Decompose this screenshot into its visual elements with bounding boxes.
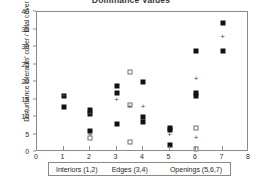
- data-point-filled-square: [220, 20, 225, 25]
- x-tick-mark: [195, 146, 196, 151]
- group-label: Openings (5,6,7): [170, 166, 222, 173]
- data-point-filled-square: [194, 48, 199, 53]
- x-tick-mark: [222, 146, 223, 151]
- data-point-plus: +: [139, 102, 148, 111]
- x-tick-mark: [63, 146, 64, 151]
- data-point-plus: +: [192, 134, 201, 143]
- x-tick-label: 1: [55, 153, 71, 160]
- data-point-filled-square: [114, 122, 119, 127]
- y-tick-label: 10: [3, 113, 29, 120]
- x-tick-label: 7: [214, 153, 230, 160]
- y-tick-label: 0: [3, 148, 29, 155]
- data-point-filled-square: [220, 48, 225, 53]
- group-label: Interiors (1,2): [56, 166, 98, 173]
- y-axis-ticks: 0510152025303540: [0, 11, 36, 151]
- x-tick-label: 6: [187, 153, 203, 160]
- data-point-plus: +: [192, 74, 201, 83]
- data-point-filled-square: [141, 120, 146, 125]
- plot-area: ++++++++++: [36, 11, 248, 151]
- data-point-open-square: [127, 69, 132, 74]
- x-tick-label: 2: [81, 153, 97, 160]
- data-point-filled-square: [141, 80, 146, 85]
- data-point-open-square: [194, 125, 199, 130]
- data-point-plus: +: [165, 130, 174, 139]
- data-point-plus: +: [125, 102, 134, 111]
- x-tick-mark: [116, 146, 117, 151]
- y-tick-label: 5: [3, 130, 29, 137]
- y-tick-label: 20: [3, 78, 29, 85]
- group-label: Edges (3,4): [112, 166, 148, 173]
- data-point-filled-square: [141, 115, 146, 120]
- data-point-plus: +: [86, 109, 95, 118]
- data-point-plus: +: [218, 32, 227, 41]
- chart-figure: Dominance Values Disturbance tolerants' …: [0, 0, 262, 181]
- group-legend-box: Interiors (1,2)Edges (3,4)Openings (5,6,…: [48, 162, 231, 176]
- y-tick-label: 40: [3, 8, 29, 15]
- data-point-plus: +: [59, 92, 68, 101]
- x-tick-mark: [142, 146, 143, 151]
- x-tick-label: 8: [240, 153, 256, 160]
- data-point-filled-square: [194, 94, 199, 99]
- y-tick-label: 30: [3, 43, 29, 50]
- x-tick-label: 0: [28, 153, 44, 160]
- x-tick-label: 4: [134, 153, 150, 160]
- data-point-plus: +: [112, 95, 121, 104]
- x-tick-label: 3: [108, 153, 124, 160]
- y-tick-label: 35: [3, 25, 29, 32]
- x-tick-mark: [89, 146, 90, 151]
- data-point-filled-square: [61, 104, 66, 109]
- chart-title: Dominance Values: [0, 0, 262, 5]
- y-tick-label: 25: [3, 60, 29, 67]
- data-point-open-square: [127, 139, 132, 144]
- x-tick-label: 5: [161, 153, 177, 160]
- data-point-plus: +: [86, 130, 95, 139]
- x-tick-mark: [169, 146, 170, 151]
- y-tick-label: 15: [3, 95, 29, 102]
- data-point-filled-square: [114, 83, 119, 88]
